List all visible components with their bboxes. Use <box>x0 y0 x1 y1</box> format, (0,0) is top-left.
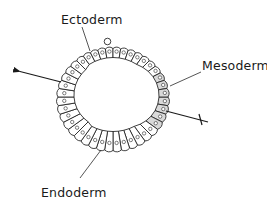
nucleus <box>115 141 118 144</box>
nucleus <box>163 91 166 94</box>
nucleus <box>101 51 104 54</box>
nucleus <box>63 91 66 94</box>
endoderm-label: Endoderm <box>41 185 107 200</box>
nucleus <box>108 141 111 144</box>
nucleus <box>67 114 70 117</box>
germ-layer-diagram: Ectoderm Mesoderm Endoderm <box>0 0 267 205</box>
nucleus <box>129 138 132 141</box>
nucleus <box>63 99 66 102</box>
nucleus <box>64 107 67 110</box>
nucleus <box>87 56 90 59</box>
nucleus <box>161 83 164 86</box>
nucleus <box>81 131 84 134</box>
right-axis-line <box>166 111 208 125</box>
nucleus <box>75 126 78 129</box>
nucleus <box>149 127 152 130</box>
ectoderm-label: Ectoderm <box>61 12 123 27</box>
nucleus <box>136 56 139 59</box>
nucleus <box>158 115 161 118</box>
nucleus <box>163 99 166 102</box>
nucleus <box>129 53 132 56</box>
nucleus <box>136 135 139 138</box>
nucleus <box>81 60 84 63</box>
nucleus <box>71 70 74 73</box>
nucleus <box>162 107 165 110</box>
left-arrow-icon <box>20 72 61 83</box>
nucleus <box>122 140 125 143</box>
nucleus <box>93 138 96 141</box>
nucleus <box>122 51 125 54</box>
nucleus <box>154 122 157 125</box>
nucleus <box>115 50 118 53</box>
nucleus <box>108 50 111 53</box>
nucleus <box>158 76 161 79</box>
top-bump <box>104 38 111 45</box>
nucleus <box>94 53 97 56</box>
ectoderm-leader-line <box>82 27 90 51</box>
mesoderm-label: Mesoderm <box>202 58 267 73</box>
nucleus <box>67 77 70 80</box>
cell-ring <box>56 47 169 152</box>
nucleus <box>142 132 145 135</box>
endoderm-leader-line <box>80 150 101 178</box>
nucleus <box>87 135 90 138</box>
nucleus <box>154 69 157 72</box>
nucleus <box>76 65 79 68</box>
nucleus <box>142 59 145 62</box>
nucleus <box>148 64 151 67</box>
mesoderm-leader-line <box>170 72 201 86</box>
nucleus <box>64 84 67 87</box>
nucleus <box>101 140 104 143</box>
nucleus <box>71 120 74 123</box>
